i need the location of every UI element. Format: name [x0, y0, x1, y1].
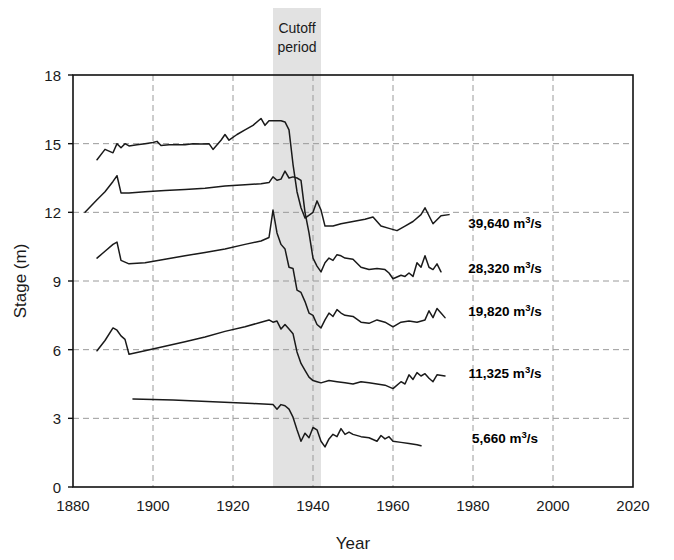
y-axis-title: Stage (m): [11, 244, 30, 319]
cutoff-period-band: [273, 8, 321, 487]
y-tick-label: 12: [44, 204, 61, 221]
x-tick-label: 2000: [536, 497, 569, 514]
chart-figure: 1880190019201940196019802000202003691215…: [0, 0, 674, 560]
x-axis-title: Year: [336, 534, 371, 553]
gridlines: [73, 75, 633, 487]
y-tick-label: 18: [44, 67, 61, 84]
series-lines: [85, 118, 449, 446]
x-tick-label: 1900: [136, 497, 169, 514]
y-tick-label: 0: [53, 479, 61, 496]
series-label-3: 11,325 m3/s: [469, 364, 542, 381]
series-label-1: 28,320 m3/s: [468, 259, 542, 276]
cutoff-label-line2: period: [278, 39, 317, 55]
x-tick-label: 1980: [456, 497, 489, 514]
axis-tick-labels: 1880190019201940196019802000202003691215…: [44, 67, 649, 514]
series-label-0: 39,640 m3/s: [468, 214, 542, 231]
x-tick-label: 1880: [56, 497, 89, 514]
x-tick-label: 2020: [616, 497, 649, 514]
cutoff-band-rect: [273, 8, 321, 487]
x-tick-label: 1940: [296, 497, 329, 514]
series-label-4: 5,660 m3/s: [472, 429, 538, 446]
y-tick-label: 3: [53, 410, 61, 427]
x-tick-label: 1960: [376, 497, 409, 514]
cutoff-label-line1: Cutoff: [278, 20, 315, 36]
stage-vs-year-line-chart: 1880190019201940196019802000202003691215…: [0, 0, 674, 560]
y-tick-label: 15: [44, 136, 61, 153]
x-tick-label: 1920: [216, 497, 249, 514]
y-tick-label: 9: [53, 273, 61, 290]
series-label-2: 19,820 m3/s: [468, 302, 542, 319]
y-tick-label: 6: [53, 342, 61, 359]
series-inline-labels: 39,640 m3/s28,320 m3/s19,820 m3/s11,325 …: [468, 214, 542, 446]
